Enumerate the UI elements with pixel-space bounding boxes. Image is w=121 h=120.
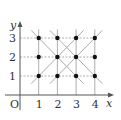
origin-label: O	[10, 98, 19, 111]
grid-point	[93, 36, 97, 40]
y-axis-arrow-icon	[18, 21, 23, 27]
grid-point	[55, 55, 59, 59]
x-tick-label: 4	[92, 98, 99, 111]
grid-point	[74, 55, 78, 59]
x-axis-label: x	[106, 97, 113, 110]
grid-point	[37, 74, 41, 78]
x-tick-labels: 1234	[36, 98, 99, 111]
grid-point	[55, 36, 59, 40]
grid-point	[37, 55, 41, 59]
grid-point	[55, 74, 59, 78]
x-tick-label: 2	[54, 98, 61, 111]
y-tick-label: 3	[9, 32, 16, 45]
grid-point	[37, 36, 41, 40]
y-tick-label: 1	[9, 70, 16, 83]
y-tick-label: 2	[9, 51, 16, 64]
x-tick-label: 3	[73, 98, 80, 111]
grid-point	[74, 74, 78, 78]
grid-point	[93, 74, 97, 78]
coordinate-diagram: y x O 1234 123	[0, 0, 121, 120]
axes	[5, 21, 114, 110]
grid-point	[74, 36, 78, 40]
y-tick-labels: 123	[9, 32, 16, 83]
grid-point	[93, 55, 97, 59]
x-tick-label: 1	[36, 98, 43, 111]
y-axis-label: y	[9, 19, 17, 32]
